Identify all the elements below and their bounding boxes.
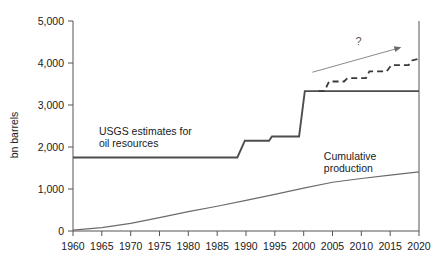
x-tick-label-1970: 1970: [119, 240, 143, 252]
x-tick-label-2015: 2015: [379, 240, 403, 252]
y-axis-title: bn barrels: [8, 112, 20, 159]
y-tick-label-5000: 5,000: [38, 15, 64, 27]
usgs-label-line-1: USGS estimates for: [99, 125, 192, 137]
cumulative-label-line-2: production: [324, 162, 373, 174]
x-tick-label-2020: 2020: [407, 240, 431, 252]
x-tick-label-2005: 2005: [321, 240, 345, 252]
chart-canvas: 0 1,000 2,000 3,000 4,000 5,000 bn barre…: [0, 0, 447, 263]
x-tick-label-1995: 1995: [263, 240, 287, 252]
x-tick-label-1965: 1965: [90, 240, 114, 252]
y-tick-label-1000: 1,000: [38, 183, 64, 195]
x-tick-label-1985: 1985: [206, 240, 230, 252]
series-line-cumulative-production: [73, 172, 419, 230]
x-tick-label-2010: 2010: [350, 240, 374, 252]
usgs-estimates-annotation: USGS estimates for oil resources: [99, 125, 192, 149]
question-mark-label: ?: [355, 35, 361, 47]
y-tick-group: 0 1,000 2,000 3,000 4,000 5,000: [38, 15, 73, 237]
x-tick-label-1990: 1990: [234, 240, 258, 252]
y-tick-label-0: 0: [58, 225, 64, 237]
oil-resources-chart-figure: 0 1,000 2,000 3,000 4,000 5,000 bn barre…: [0, 0, 447, 263]
x-tick-label-1960: 1960: [61, 240, 85, 252]
x-tick-label-2000: 2000: [292, 240, 316, 252]
series-line-projection-dashed: [319, 59, 419, 91]
x-tick-group: 1960 1965 1970 1975 1980 1985 1990 1995 …: [61, 231, 431, 252]
y-tick-label-3000: 3,000: [38, 99, 64, 111]
cumulative-label-line-1: Cumulative: [324, 150, 377, 162]
trend-arrow-head: [394, 46, 402, 52]
y-tick-label-2000: 2,000: [38, 141, 64, 153]
trend-arrow-shaft: [312, 48, 399, 72]
y-tick-label-4000: 4,000: [38, 57, 64, 69]
x-tick-label-1975: 1975: [148, 240, 172, 252]
cumulative-production-annotation: Cumulative production: [324, 150, 377, 174]
usgs-label-line-2: oil resources: [99, 137, 159, 149]
x-tick-label-1980: 1980: [177, 240, 201, 252]
